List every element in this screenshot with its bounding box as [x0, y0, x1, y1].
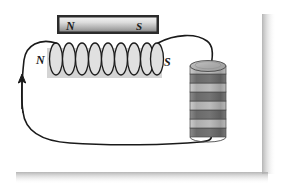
- voltaic-pile-battery: [190, 61, 226, 143]
- coil-turn: [115, 43, 128, 75]
- bar-magnet-south-label: S: [136, 20, 142, 32]
- bar-magnet-north-label: N: [65, 19, 76, 33]
- coil-turn: [76, 43, 89, 75]
- pile-disc: [190, 92, 226, 101]
- pile-disc: [190, 119, 226, 128]
- electromagnet-figure: N S N S: [0, 0, 287, 195]
- coil-turn: [102, 43, 115, 75]
- pile-disc: [190, 101, 226, 110]
- bar-magnet: N S: [57, 15, 159, 34]
- figure-canvas: N S N S: [0, 0, 287, 195]
- coil-turn: [50, 43, 63, 75]
- pile-disc: [190, 74, 226, 83]
- coil-turn: [151, 43, 164, 75]
- solenoid-north-label: N: [35, 53, 46, 67]
- solenoid-coil: [50, 43, 164, 75]
- pile-disc: [190, 110, 226, 119]
- coil-turn: [89, 43, 102, 75]
- pile-disc: [190, 83, 226, 92]
- coil-turn: [63, 43, 76, 75]
- solenoid-south-label: S: [164, 55, 171, 69]
- coil-turn: [128, 43, 141, 75]
- pile-disc: [190, 128, 226, 137]
